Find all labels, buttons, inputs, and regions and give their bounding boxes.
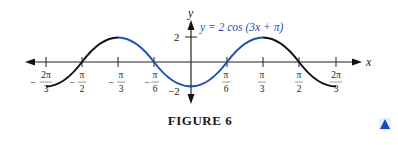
x-tick-label-neg-pi-6-den: 6 <box>153 84 158 94</box>
x-tick-label-neg-pi-2-sign: − <box>69 77 75 88</box>
y-tick-label-2: 2 <box>174 31 180 43</box>
x-tick-label-neg-pi-3-den: 3 <box>119 84 124 94</box>
x-tick-label-neg-2pi-3-num: 2π <box>41 70 51 80</box>
x-tick-label-neg-pi-6-sign: − <box>144 77 150 88</box>
y-axis-down-arrow-icon <box>188 94 195 104</box>
x-tick-label-neg-2pi-3-sign: − <box>30 77 36 88</box>
x-tick-label-neg-pi-6-num: π <box>153 70 158 80</box>
graph-figure: x y 2 −2 − 2π 3 − π 2 − π 3 − π <box>0 0 398 110</box>
equation-label: y = 2 cos (3x + π) <box>199 21 283 34</box>
x-tick-label-neg-pi-3-num: π <box>119 70 124 80</box>
x-axis-label: x <box>365 55 372 69</box>
x-tick-label-pi-3-den: 3 <box>260 84 265 94</box>
x-tick-label-pi-3-num: π <box>260 70 265 80</box>
x-tick-label-neg-pi-2-num: π <box>80 70 85 80</box>
y-axis-label: y <box>187 6 194 20</box>
x-tick-labels: − 2π 3 − π 2 − π 3 − π 6 π 6 π 3 π 2 2π … <box>30 70 342 94</box>
x-tick-label-pi-2-den: 2 <box>297 84 302 94</box>
x-axis-left-arrow-icon <box>25 59 35 66</box>
x-tick-label-pi-2-num: π <box>297 70 302 80</box>
x-tick-label-2pi-3-num: 2π <box>331 70 341 80</box>
y-axis-up-arrow-icon <box>188 20 195 30</box>
x-tick-label-pi-6-num: π <box>224 70 229 80</box>
x-tick-label-neg-pi-2-den: 2 <box>80 84 85 94</box>
up-triangle-icon[interactable] <box>379 116 391 128</box>
figure-caption: FIGURE 6 <box>150 113 250 129</box>
x-axis-right-arrow-icon <box>352 59 362 66</box>
x-tick-label-pi-6-den: 6 <box>224 84 229 94</box>
x-tick-label-neg-pi-3-sign: − <box>108 77 114 88</box>
y-tick-label-neg2: −2 <box>168 85 180 97</box>
